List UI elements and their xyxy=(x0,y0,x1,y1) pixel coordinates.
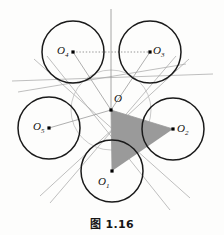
tangent-line-4 xyxy=(18,64,186,92)
figure-container: O O1 O2 O3 O4 O5 图 1.16 xyxy=(0,0,224,235)
label-O3: O3 xyxy=(153,45,164,59)
figure-caption: 图 1.16 xyxy=(0,215,224,231)
dot-O4 xyxy=(71,50,74,53)
tangent-line-1 xyxy=(12,74,213,81)
dot-O3 xyxy=(148,50,151,53)
label-O5: O5 xyxy=(33,121,44,135)
geometry-diagram xyxy=(0,0,224,235)
dot-O2 xyxy=(171,127,174,130)
label-O4: O4 xyxy=(57,45,68,59)
dot-O xyxy=(109,108,112,111)
label-center-O: O xyxy=(114,93,122,104)
dot-O5 xyxy=(47,126,50,129)
label-O2: O2 xyxy=(177,123,188,137)
dot-O1 xyxy=(110,169,113,172)
segment-O-O4 xyxy=(73,52,111,110)
label-O1: O1 xyxy=(98,176,109,190)
